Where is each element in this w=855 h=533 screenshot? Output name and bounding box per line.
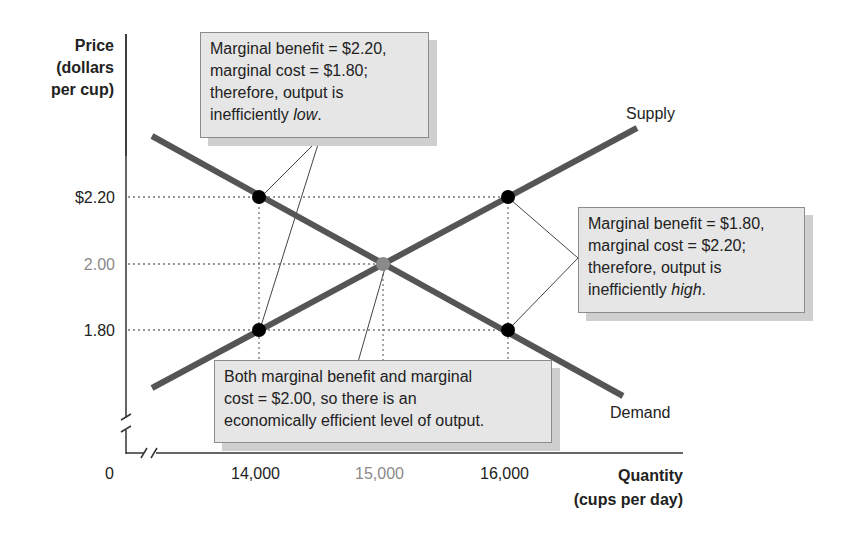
demand-label: Demand <box>610 403 670 422</box>
x-tick-15000: 15,000 <box>355 464 404 483</box>
point-demand-14000 <box>252 190 266 204</box>
x-axis-label: Quantity (cups per day) <box>574 464 683 512</box>
x-tick-14000: 14,000 <box>231 464 280 483</box>
point-supply-16000 <box>501 190 515 204</box>
y-axis-label: Price (dollars per cup) <box>51 35 114 101</box>
callout-efficient-output: Both marginal benefit and marginal cost … <box>214 360 552 443</box>
x-tick-16000: 16,000 <box>480 464 529 483</box>
y-tick-2-20: $2.20 <box>75 188 115 207</box>
y-tick-1-80: 1.80 <box>84 321 115 340</box>
supply-label: Supply <box>626 104 675 123</box>
y-tick-2-00: 2.00 <box>84 255 115 274</box>
point-demand-16000 <box>501 323 515 337</box>
point-supply-14000 <box>252 323 266 337</box>
equilibrium-point <box>376 257 390 271</box>
callout-inefficiently-high: Marginal benefit = $1.80, marginal cost … <box>578 207 805 313</box>
leader-lines <box>261 138 578 362</box>
x-tick-origin: 0 <box>105 464 114 483</box>
supply-curve <box>152 128 637 388</box>
callout-inefficiently-low: Marginal benefit = $2.20, marginal cost … <box>200 32 429 138</box>
